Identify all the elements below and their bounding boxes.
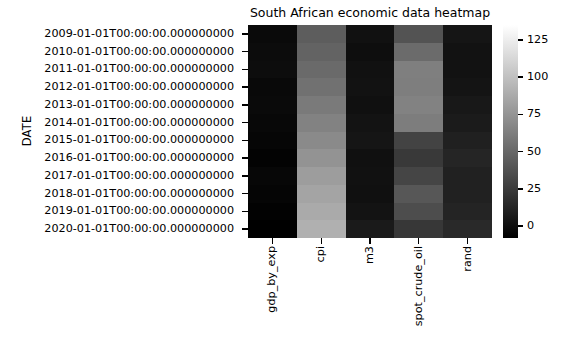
y-axis-tick-label: 2013-01-01T00:00:00.000000000 bbox=[28, 96, 240, 114]
tick-mark bbox=[518, 188, 523, 189]
heatmap-cell bbox=[443, 185, 492, 203]
heatmap-cell bbox=[394, 132, 443, 150]
heatmap-cell bbox=[443, 43, 492, 61]
heatmap-cell bbox=[248, 185, 297, 203]
heatmap-cell bbox=[248, 149, 297, 167]
heatmap-cell bbox=[443, 167, 492, 185]
heatmap-cell bbox=[297, 220, 346, 238]
y-axis-tick-label: 2020-01-01T00:00:00.000000000 bbox=[28, 220, 240, 238]
heatmap-cell bbox=[346, 114, 395, 132]
heatmap-cell bbox=[346, 61, 395, 79]
heatmap-column-spot_crude_oil bbox=[394, 25, 443, 238]
x-axis-tick-label: gdp_by_exp bbox=[266, 246, 278, 313]
y-axis-tick-labels: 2009-01-01T00:00:00.0000000002010-01-01T… bbox=[28, 25, 240, 238]
heatmap-cell bbox=[394, 43, 443, 61]
heatmap-cell bbox=[443, 78, 492, 96]
y-axis-tick-label: 2012-01-01T00:00:00.000000000 bbox=[28, 78, 240, 96]
colorbar bbox=[503, 25, 518, 238]
heatmap-cell bbox=[248, 203, 297, 221]
heatmap-cell bbox=[248, 61, 297, 79]
colorbar-tick: 50 bbox=[518, 146, 541, 158]
tick-mark bbox=[518, 225, 523, 226]
heatmap-cell bbox=[297, 78, 346, 96]
chart-title: South African economic data heatmap bbox=[248, 5, 492, 20]
heatmap-cell bbox=[297, 203, 346, 221]
heatmap-cell bbox=[394, 185, 443, 203]
tick-mark bbox=[321, 238, 322, 244]
heatmap-cell bbox=[346, 167, 395, 185]
x-axis-tick bbox=[346, 238, 395, 244]
y-axis-tick-label: 2011-01-01T00:00:00.000000000 bbox=[28, 61, 240, 79]
heatmap-cell bbox=[443, 132, 492, 150]
heatmap-cell bbox=[394, 203, 443, 221]
heatmap-cell bbox=[443, 25, 492, 43]
heatmap-figure: South African economic data heatmap DATE… bbox=[0, 0, 564, 359]
colorbar-tick: 75 bbox=[518, 108, 541, 120]
tick-mark bbox=[518, 76, 523, 77]
x-axis-tick bbox=[248, 238, 297, 244]
x-axis-tick-label-slot: rand bbox=[443, 246, 492, 356]
heatmap-cell bbox=[346, 78, 395, 96]
y-axis-tick-label: 2016-01-01T00:00:00.000000000 bbox=[28, 149, 240, 167]
heatmap-cell bbox=[248, 167, 297, 185]
heatmap-cell bbox=[297, 185, 346, 203]
heatmap-cell bbox=[394, 96, 443, 114]
heatmap-cell bbox=[443, 114, 492, 132]
heatmap-cell bbox=[248, 96, 297, 114]
colorbar-tick-label: 100 bbox=[527, 71, 548, 83]
heatmap-column-rand bbox=[443, 25, 492, 238]
heatmap-cell bbox=[346, 96, 395, 114]
heatmap-cell bbox=[346, 25, 395, 43]
tick-mark bbox=[369, 238, 370, 244]
x-axis-tick-label: rand bbox=[462, 246, 474, 272]
heatmap-cell bbox=[394, 149, 443, 167]
heatmap-cell bbox=[248, 114, 297, 132]
tick-mark bbox=[467, 238, 468, 244]
heatmap-cell bbox=[297, 43, 346, 61]
colorbar-gradient bbox=[503, 25, 518, 238]
tick-mark bbox=[272, 238, 273, 244]
heatmap-cell bbox=[346, 149, 395, 167]
heatmap-cell bbox=[297, 61, 346, 79]
tick-mark bbox=[518, 114, 523, 115]
heatmap-cell bbox=[443, 220, 492, 238]
x-axis-tick-label: m3 bbox=[364, 246, 376, 264]
x-axis-ticks bbox=[248, 238, 492, 244]
heatmap-cell bbox=[394, 78, 443, 96]
x-axis-tick-label-slot: gdp_by_exp bbox=[248, 246, 297, 356]
colorbar-tick: 0 bbox=[518, 220, 534, 232]
heatmap-cell bbox=[297, 132, 346, 150]
heatmap-cell bbox=[346, 132, 395, 150]
heatmap-cell bbox=[248, 43, 297, 61]
heatmap-column-gdp_by_exp bbox=[248, 25, 297, 238]
x-axis-tick-label-slot: spot_crude_oil bbox=[394, 246, 443, 356]
heatmap-cell bbox=[248, 132, 297, 150]
x-axis-tick-label-slot: cpi bbox=[297, 246, 346, 356]
heatmap-cell bbox=[394, 114, 443, 132]
heatmap-plot-area bbox=[248, 25, 492, 238]
heatmap-cell bbox=[297, 167, 346, 185]
heatmap-cell bbox=[248, 220, 297, 238]
x-axis-tick bbox=[394, 238, 443, 244]
y-axis-tick-label: 2009-01-01T00:00:00.000000000 bbox=[28, 25, 240, 43]
heatmap-cell bbox=[394, 25, 443, 43]
colorbar-tick-label: 25 bbox=[527, 183, 541, 195]
x-axis-tick bbox=[443, 238, 492, 244]
heatmap-cell bbox=[394, 61, 443, 79]
heatmap-cell bbox=[443, 149, 492, 167]
heatmap-cell bbox=[297, 25, 346, 43]
tick-mark bbox=[418, 238, 419, 244]
heatmap-cell bbox=[346, 203, 395, 221]
heatmap-cell bbox=[248, 78, 297, 96]
heatmap-cell bbox=[394, 220, 443, 238]
heatmap-column-m3 bbox=[346, 25, 395, 238]
y-axis-tick-label: 2019-01-01T00:00:00.000000000 bbox=[28, 203, 240, 221]
heatmap-cell bbox=[297, 96, 346, 114]
heatmap-cell bbox=[346, 185, 395, 203]
heatmap-cell bbox=[248, 25, 297, 43]
x-axis-tick bbox=[297, 238, 346, 244]
colorbar-tick-label: 0 bbox=[527, 220, 534, 232]
heatmap-cell bbox=[346, 43, 395, 61]
y-axis-tick-label: 2015-01-01T00:00:00.000000000 bbox=[28, 132, 240, 150]
heatmap-cell bbox=[346, 220, 395, 238]
